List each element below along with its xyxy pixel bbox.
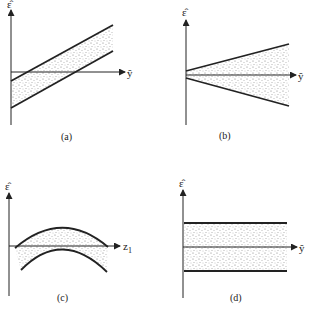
panel-a: ε̂ ŷ (a) — [7, 0, 133, 143]
y-axis-label: ε̂ — [179, 177, 186, 189]
residual-patterns-figure: ε̂ ŷ (a) ε̂ ŷ (b) ε̂ z1 (c) ε̂ ŷ (d) — [0, 0, 314, 311]
caption: (c) — [57, 292, 68, 304]
panel-c: ε̂ z1 (c) — [5, 180, 132, 304]
x-axis-label: ŷ — [299, 242, 305, 254]
caption: (d) — [230, 292, 242, 304]
y-axis-label: ε̂ — [182, 6, 189, 18]
caption: (b) — [219, 130, 231, 142]
x-axis-label: z1 — [123, 240, 132, 255]
panel-d: ε̂ ŷ (d) — [179, 177, 305, 304]
y-axis-label: ε̂ — [5, 180, 12, 192]
band-region — [11, 25, 113, 108]
y-axis-label: ε̂ — [7, 0, 14, 10]
caption: (a) — [61, 131, 72, 143]
x-axis-label: ŷ — [127, 67, 133, 79]
x-axis-label: ŷ — [298, 70, 304, 82]
panel-b: ε̂ ŷ (b) — [182, 6, 304, 142]
